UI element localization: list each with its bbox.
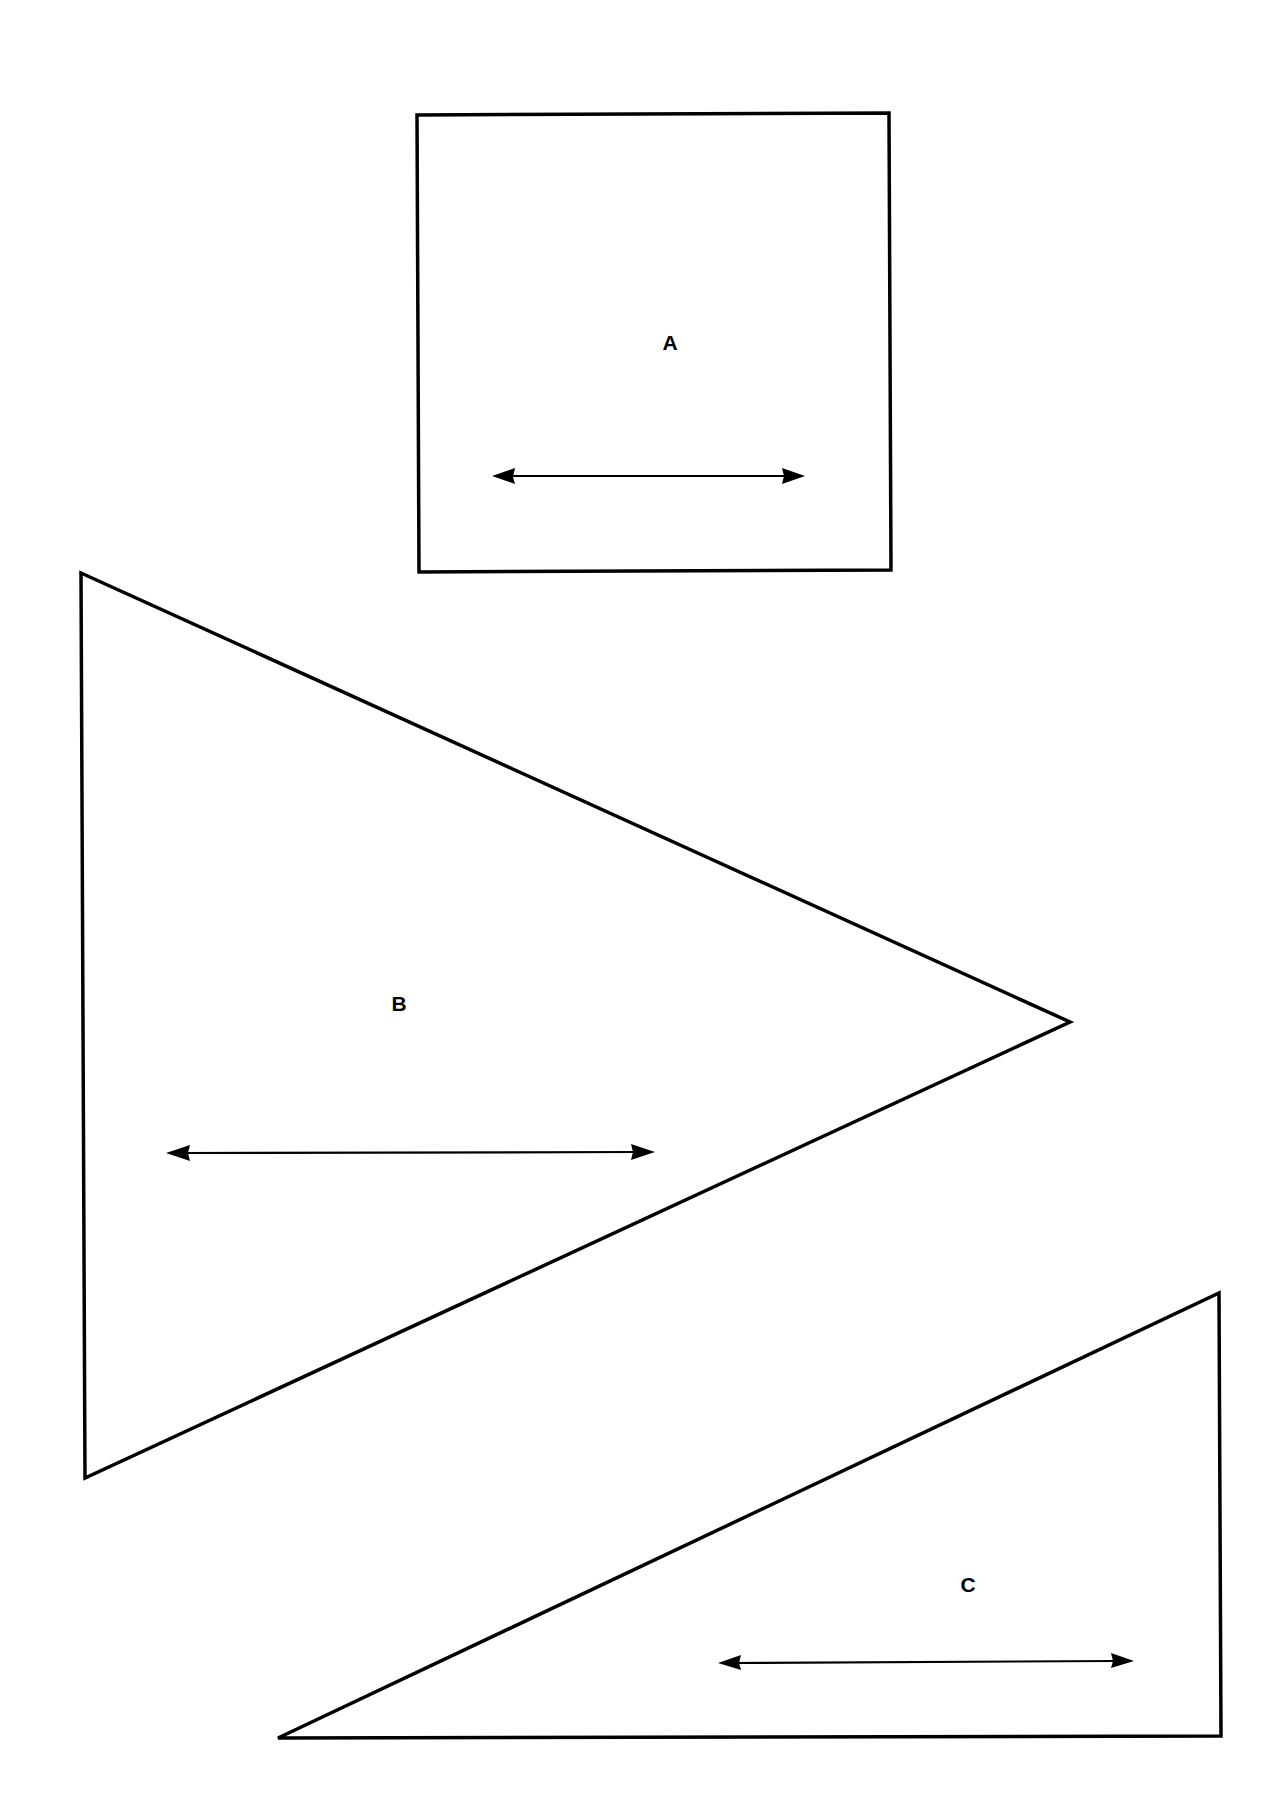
double-arrow-a	[492, 468, 805, 484]
square-outline	[417, 113, 891, 572]
shape-c: C	[278, 1293, 1221, 1738]
shape-b: B	[81, 573, 1070, 1478]
arrow-left-icon	[492, 468, 515, 484]
arrow-shaft	[736, 1661, 1115, 1663]
diagram-canvas: A B C	[0, 0, 1287, 1816]
triangle-outline	[81, 573, 1070, 1478]
arrow-right-icon	[782, 468, 805, 484]
right-triangle-outline	[278, 1293, 1221, 1738]
arrow-right-icon	[1111, 1653, 1134, 1668]
arrow-left-icon	[166, 1145, 190, 1161]
shape-label-c: C	[960, 1573, 975, 1596]
shape-label-a: A	[662, 331, 677, 354]
arrow-right-icon	[631, 1144, 655, 1160]
shape-label-b: B	[391, 992, 406, 1015]
shape-a: A	[417, 113, 891, 572]
double-arrow-b	[166, 1144, 655, 1161]
arrow-left-icon	[718, 1655, 741, 1670]
arrow-shaft	[185, 1152, 636, 1153]
double-arrow-c	[718, 1653, 1134, 1670]
